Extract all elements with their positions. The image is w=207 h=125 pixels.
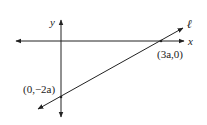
y-intercept-point [60,96,63,99]
coordinate-diagram: y x ℓ (3a,0) (0,−2a) [0,0,207,125]
x-axis-label: x [187,35,193,47]
y-intercept-label: (0,−2a) [23,83,55,96]
y-axis-label: y [49,16,55,28]
line-label: ℓ [187,17,192,31]
x-intercept-label: (3a,0) [157,48,183,61]
x-intercept-point [160,40,163,43]
